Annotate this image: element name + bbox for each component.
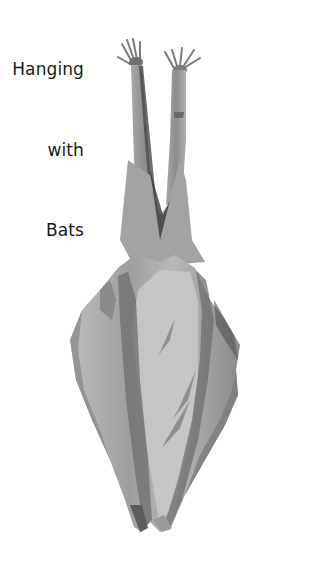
bat-body [70,39,240,532]
right-foot [165,48,200,68]
bat-illustration [60,28,260,543]
